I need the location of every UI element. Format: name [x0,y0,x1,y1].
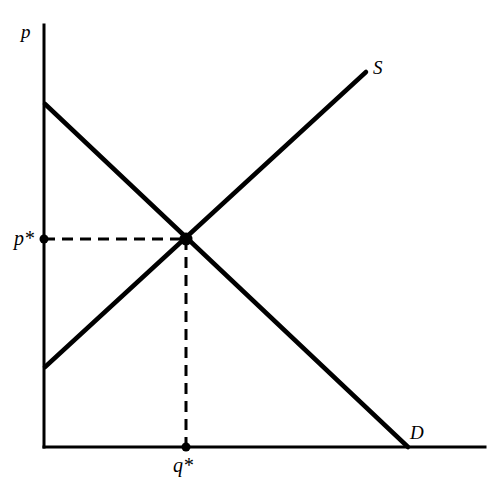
equilibrium-price-label: p* [14,228,34,248]
price-axis-label: p [21,22,31,41]
supply-curve [45,72,366,367]
equilibrium-quantity-tick-dot [182,443,191,452]
demand-curve [45,104,408,447]
supply-curve-label: S [373,58,383,77]
plot-area [0,0,498,489]
supply-demand-figure: p p* q* S D [0,0,498,489]
demand-curve-label: D [410,423,424,442]
equilibrium-price-tick-dot [40,235,49,244]
equilibrium-quantity-label: q* [173,455,193,475]
equilibrium-point-dot [180,233,193,246]
